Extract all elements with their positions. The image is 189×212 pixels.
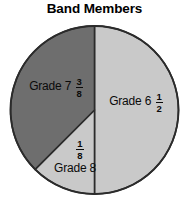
pie-label-grade-6: Grade 6 1 2 xyxy=(100,88,172,113)
pie-chart: Band Members Grade 7 3 8 Grade 6 1 2 xyxy=(0,0,189,212)
pie-label-grade-8: 1 8 Grade 8 xyxy=(36,139,114,174)
fraction-denominator: 8 xyxy=(76,88,83,98)
pie-label-grade-7: Grade 7 3 8 xyxy=(16,74,96,98)
fraction-denominator: 2 xyxy=(156,103,163,113)
fraction-denominator: 8 xyxy=(76,150,83,160)
fraction-numerator: 1 xyxy=(76,139,83,150)
fraction: 1 8 xyxy=(76,139,83,160)
fraction-numerator: 3 xyxy=(76,77,83,88)
pie-label-grade-8-text: Grade 8 xyxy=(36,162,114,174)
pie-label-grade-7-fraction: 3 8 xyxy=(76,77,83,98)
pie-label-grade-6-fraction: 1 2 xyxy=(156,92,163,113)
pie-label-grade-6-text: Grade 6 xyxy=(109,94,151,108)
pie-label-grade-8-fraction: 1 8 xyxy=(36,139,114,160)
fraction-numerator: 1 xyxy=(156,92,163,103)
pie-label-grade-7-text: Grade 7 xyxy=(29,79,71,93)
